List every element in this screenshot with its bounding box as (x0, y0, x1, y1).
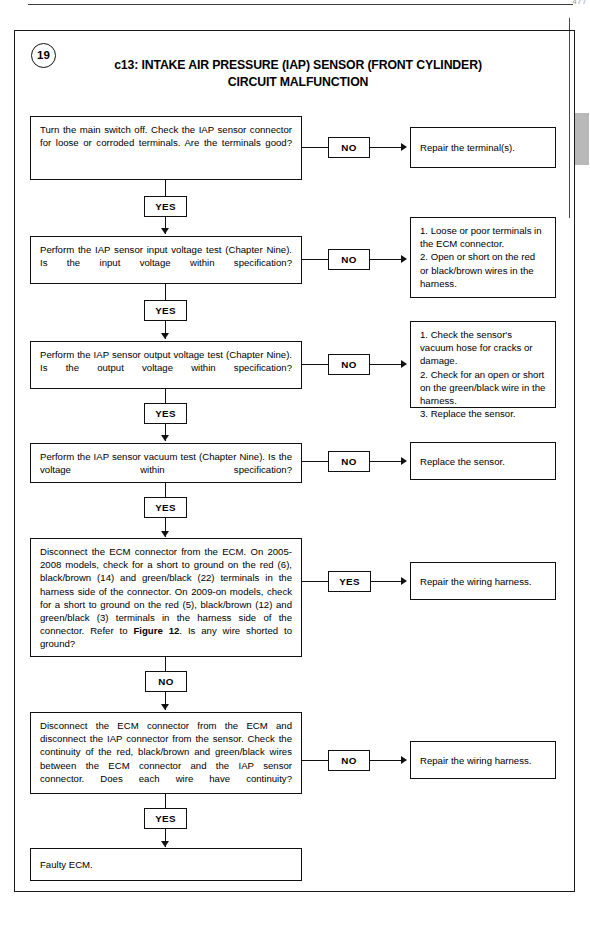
page-title: c13: INTAKE AIR PRESSURE (IAP) SENSOR (F… (63, 57, 533, 91)
connector-q1-down (165, 180, 166, 196)
edge-label-no-2: NO (328, 249, 370, 270)
question-box-5-text: Disconnect the ECM connector from the EC… (40, 545, 292, 664)
result-box-5-text: Repair the wiring harness. (420, 575, 531, 588)
result-box-1: Repair the terminal(s). (410, 127, 556, 168)
page-title-line-1: c13: INTAKE AIR PRESSURE (IAP) SENSOR (F… (63, 57, 533, 74)
connector-no3-to-r3 (370, 364, 404, 365)
result-box-3-line-1: 1. Check the sensor's vacuum hose for cr… (420, 328, 546, 368)
question-box-4: Perform the IAP sensor vacuum test (Chap… (30, 443, 302, 483)
connector-no2-to-r2 (370, 259, 404, 260)
result-box-3-line-3: 3. Replace the sensor. (420, 407, 546, 420)
edge-label-yes-1: YES (144, 196, 187, 217)
result-box-2-line-2: 2. Open or short on the red or black/bro… (420, 250, 546, 290)
edge-label-yes-3: YES (144, 403, 187, 424)
edge-label-no-3: NO (328, 354, 370, 375)
result-box-6-text: Repair the wiring harness. (420, 754, 531, 767)
question-box-1-text: Turn the main switch off. Check the IAP … (40, 123, 292, 163)
question-box-6: Disconnect the ECM connector from the EC… (30, 712, 302, 794)
edge-label-no-6: NO (328, 750, 370, 771)
question-box-3: Perform the IAP sensor output voltage te… (30, 341, 302, 389)
arrow-to-result-5 (401, 577, 407, 585)
final-result-box: Faulty ECM. (30, 848, 302, 881)
step-number-badge: 19 (31, 43, 56, 68)
result-box-5: Repair the wiring harness. (410, 562, 556, 600)
figure-reference: Figure 12 (133, 625, 179, 636)
final-result-text: Faulty ECM. (40, 858, 93, 871)
result-box-3: 1. Check the sensor's vacuum hose for cr… (410, 321, 556, 408)
result-box-1-text: Repair the terminal(s). (420, 141, 515, 154)
connector-q4-down (165, 483, 166, 497)
arrow-to-result-1 (401, 143, 407, 151)
edge-label-yes-5: YES (328, 571, 371, 592)
arrow-to-result-4 (401, 457, 407, 465)
edge-label-yes-2: YES (144, 300, 187, 321)
question-box-5-part-1: Disconnect the ECM connector from the EC… (40, 546, 292, 636)
connector-q2-down (165, 284, 166, 300)
connector-no1-to-r1 (370, 147, 404, 148)
flowchart-page: 477 19 c13: INTAKE AIR PRESSURE (IAP) SE… (0, 0, 590, 928)
edge-label-yes-6: YES (144, 808, 187, 829)
arrow-to-question-2 (161, 228, 169, 234)
edge-label-no-5: NO (145, 671, 187, 692)
arrow-to-result-2 (401, 255, 407, 263)
arrow-to-final-box (161, 841, 169, 847)
question-box-1: Turn the main switch off. Check the IAP … (30, 116, 302, 180)
arrow-to-result-3 (401, 360, 407, 368)
arrow-to-question-4 (161, 435, 169, 441)
question-box-6-text: Disconnect the ECM connector from the EC… (40, 719, 292, 798)
result-box-6: Repair the wiring harness. (410, 741, 556, 779)
connector-yes5-to-r5 (371, 581, 404, 582)
question-box-5: Disconnect the ECM connector from the EC… (30, 538, 302, 657)
question-box-2: Perform the IAP sensor input voltage tes… (30, 236, 302, 284)
connector-q5-down (165, 657, 166, 671)
chapter-thumb-tab (575, 113, 589, 165)
question-box-4-text: Perform the IAP sensor vacuum test (Chap… (40, 450, 292, 490)
page-header-rule (28, 4, 573, 5)
edge-label-no-1: NO (328, 137, 370, 158)
result-box-2: 1. Loose or poor terminals in the ECM co… (410, 217, 556, 298)
connector-q6-to-no (302, 760, 328, 761)
connector-q4-to-no (302, 461, 328, 462)
connector-no6-to-r6 (370, 760, 404, 761)
connector-no4-to-r4 (370, 461, 404, 462)
result-box-2-line-1: 1. Loose or poor terminals in the ECM co… (420, 224, 546, 250)
result-box-4: Replace the sensor. (410, 442, 556, 480)
arrow-to-question-3 (161, 333, 169, 339)
page-number: 477 (572, 0, 587, 6)
edge-label-no-4: NO (328, 451, 370, 472)
connector-q6-down (165, 794, 166, 808)
edge-label-yes-4: YES (144, 497, 187, 518)
connector-q3-down (165, 389, 166, 403)
arrow-to-result-6 (401, 756, 407, 764)
connector-q1-to-no (302, 147, 328, 148)
arrow-to-question-6 (161, 704, 169, 710)
connector-q3-to-no (302, 364, 328, 365)
connector-q2-to-no (302, 259, 328, 260)
connector-q5-to-yes (302, 581, 328, 582)
result-box-3-line-2: 2. Check for an open or short on the gre… (420, 368, 546, 408)
arrow-to-question-5 (161, 531, 169, 537)
result-box-4-text: Replace the sensor. (420, 455, 505, 468)
page-title-line-2: CIRCUIT MALFUNCTION (63, 74, 533, 91)
question-box-2-text: Perform the IAP sensor input voltage tes… (40, 243, 292, 283)
question-box-3-text: Perform the IAP sensor output voltage te… (40, 348, 292, 388)
